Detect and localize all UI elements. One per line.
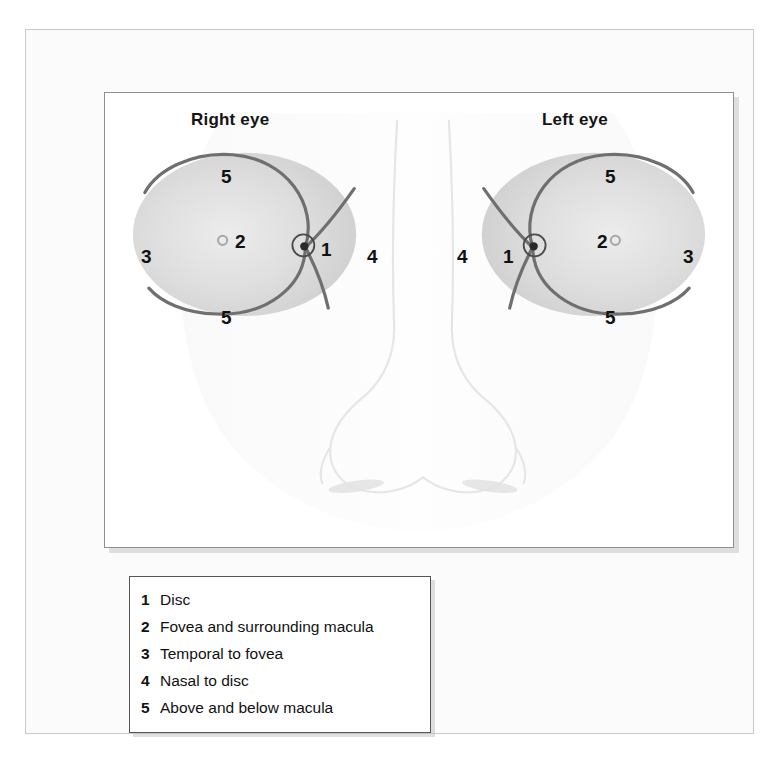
legend-key-5: 5 [141, 696, 155, 720]
legend-item-3: 3 Temporal to fovea [141, 642, 430, 666]
illustration-panel: Right eye Left eye 5 3 2 1 4 5 5 4 1 2 3… [104, 92, 734, 548]
right-optic-disc-center [300, 242, 308, 250]
right-eye-marker-2-fovea: 2 [235, 232, 246, 251]
legend-item-2: 2 Fovea and surrounding macula [141, 615, 430, 639]
left-eye-marker-1-disc: 1 [503, 247, 514, 266]
right-eye-marker-1-disc: 1 [321, 240, 332, 259]
legend-label-4: Nasal to disc [160, 669, 249, 693]
legend-label-2: Fovea and surrounding macula [160, 615, 374, 639]
left-eye-marker-5-superior: 5 [605, 167, 616, 186]
right-eye-marker-3-temporal: 3 [141, 247, 152, 266]
face-outline-illustration [105, 93, 733, 547]
left-eye-marker-5-inferior: 5 [605, 308, 616, 327]
legend-item-1: 1 Disc [141, 588, 430, 612]
legend-box: 1 Disc 2 Fovea and surrounding macula 3 … [129, 576, 431, 733]
legend-key-2: 2 [141, 615, 155, 639]
right-eye-marker-5-superior: 5 [221, 167, 232, 186]
legend-item-5: 5 Above and below macula [141, 696, 430, 720]
legend-label-5: Above and below macula [160, 696, 333, 720]
left-eye-marker-4-nasal: 4 [457, 247, 468, 266]
right-eye-marker-4-nasal: 4 [367, 247, 378, 266]
right-eye-marker-5-inferior: 5 [221, 308, 232, 327]
legend-label-1: Disc [160, 588, 190, 612]
legend-key-4: 4 [141, 669, 155, 693]
legend-item-4: 4 Nasal to disc [141, 669, 430, 693]
legend-key-1: 1 [141, 588, 155, 612]
left-eye-marker-3-temporal: 3 [683, 247, 694, 266]
legend-label-3: Temporal to fovea [160, 642, 283, 666]
left-eye-title: Left eye [542, 110, 608, 130]
left-eye-marker-2-fovea: 2 [597, 232, 608, 251]
right-eye-title: Right eye [191, 110, 269, 130]
legend-key-3: 3 [141, 642, 155, 666]
left-eye-fundus [482, 153, 705, 316]
figure-frame: Right eye Left eye 5 3 2 1 4 5 5 4 1 2 3… [25, 29, 754, 734]
left-optic-disc-center [529, 242, 537, 250]
